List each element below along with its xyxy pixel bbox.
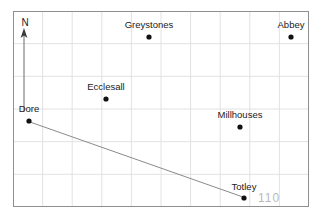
compass-north-arrow xyxy=(21,28,28,112)
place-label: Greystones xyxy=(125,19,174,30)
place-marker-group[interactable]: Millhouses xyxy=(218,109,263,130)
place-marker-group[interactable]: Ecclesall xyxy=(87,81,125,102)
place-marker-group[interactable]: Greystones xyxy=(125,19,174,40)
place-dot-icon[interactable] xyxy=(241,195,246,200)
place-marker-group[interactable]: Abbey xyxy=(278,19,305,40)
place-label: Millhouses xyxy=(218,109,263,120)
place-dot-icon[interactable] xyxy=(288,34,293,39)
map-canvas: N GreystonesAbbeyEcclesallDoreMillhouses… xyxy=(0,0,319,218)
place-marker-group[interactable]: Dore xyxy=(19,103,40,124)
place-dot-icon[interactable] xyxy=(146,34,151,39)
place-dot-icon[interactable] xyxy=(26,118,31,123)
map-figure: N GreystonesAbbeyEcclesallDoreMillhouses… xyxy=(0,0,319,218)
place-dot-icon[interactable] xyxy=(237,124,242,129)
annotations-layer: 110 xyxy=(258,191,280,205)
place-label: Ecclesall xyxy=(87,81,125,92)
place-dot-icon[interactable] xyxy=(103,96,108,101)
places-layer: GreystonesAbbeyEcclesallDoreMillhousesTo… xyxy=(19,19,305,201)
route-line-dore-totley xyxy=(30,122,243,197)
place-label: Totley xyxy=(232,181,257,192)
place-label: Abbey xyxy=(278,19,305,30)
place-marker-group[interactable]: Totley xyxy=(232,181,257,201)
handwritten-annotation: 110 xyxy=(258,191,280,205)
compass-label-n: N xyxy=(21,17,28,28)
place-label: Dore xyxy=(19,103,40,114)
